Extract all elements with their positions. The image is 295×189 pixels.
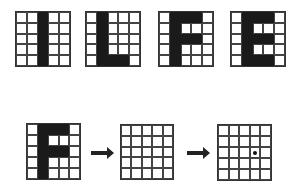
filled-cell [97, 12, 108, 23]
empty-cell [250, 136, 261, 147]
empty-cell [191, 55, 202, 66]
empty-cell [163, 157, 173, 168]
empty-cell [48, 34, 59, 45]
filled-cell [170, 34, 181, 45]
empty-cell [121, 157, 131, 168]
filled-cell [242, 23, 253, 34]
empty-cell [108, 44, 119, 55]
empty-cell [59, 157, 70, 168]
empty-cell [152, 157, 162, 168]
empty-cell [239, 147, 250, 158]
empty-cell [229, 147, 240, 158]
empty-cell [159, 44, 170, 55]
empty-cell [260, 147, 271, 158]
arrow-right-icon [187, 151, 205, 155]
filled-cell [181, 12, 192, 23]
grid-E [230, 11, 286, 67]
empty-cell [159, 34, 170, 45]
empty-cell [274, 44, 285, 55]
empty-cell [59, 44, 70, 55]
empty-cell [86, 34, 97, 45]
filled-cell [242, 55, 253, 66]
empty-cell [260, 136, 271, 147]
filled-cell [38, 44, 49, 55]
empty-cell [27, 168, 38, 179]
filled-cell [242, 12, 253, 23]
filled-cell [263, 12, 274, 23]
filled-cell [97, 23, 108, 34]
empty-cell [48, 135, 59, 146]
empty-cell [48, 157, 59, 168]
filled-cell [38, 135, 49, 146]
filled-cell [38, 34, 49, 45]
filled-cell [97, 55, 108, 66]
empty-cell [250, 158, 261, 169]
empty-cell [152, 125, 162, 136]
filled-cell [38, 55, 49, 66]
empty-cell [218, 147, 229, 158]
filled-cell [38, 12, 49, 23]
filled-cell [108, 55, 119, 66]
empty-cell [191, 44, 202, 55]
empty-cell [250, 169, 261, 180]
filled-cell [170, 55, 181, 66]
empty-cell [16, 34, 27, 45]
empty-cell [48, 55, 59, 66]
empty-cell [121, 168, 131, 179]
empty-cell [202, 12, 213, 23]
empty-cell [263, 44, 274, 55]
empty-cell [59, 168, 70, 179]
empty-cell [202, 23, 213, 34]
empty-cell [27, 34, 38, 45]
empty-cell [118, 12, 129, 23]
empty-cell [231, 44, 242, 55]
grid-L [85, 11, 141, 67]
filled-cell [242, 34, 253, 45]
empty-cell [59, 23, 70, 34]
empty-cell [118, 23, 129, 34]
empty-cell [218, 125, 229, 136]
empty-cell [69, 135, 80, 146]
empty-cell [142, 147, 152, 158]
empty-cell [16, 23, 27, 34]
empty-cell [260, 169, 271, 180]
empty-cell [229, 136, 240, 147]
empty-cell [231, 23, 242, 34]
empty-cell [239, 125, 250, 136]
filled-cell [253, 12, 264, 23]
empty-cell [27, 23, 38, 34]
empty-cell [131, 147, 141, 158]
filled-cell [48, 124, 59, 135]
empty-cell [142, 125, 152, 136]
empty-cell [86, 55, 97, 66]
dot-marker-icon [253, 151, 257, 155]
filled-cell [242, 44, 253, 55]
empty-cell [69, 124, 80, 135]
empty-cell [274, 34, 285, 45]
empty-cell [229, 158, 240, 169]
empty-cell [274, 55, 285, 66]
filled-cell [38, 124, 49, 135]
empty-cell [239, 169, 250, 180]
empty-cell [27, 44, 38, 55]
empty-cell [129, 44, 140, 55]
empty-cell [27, 55, 38, 66]
grid-I [15, 11, 71, 67]
empty-cell [250, 125, 261, 136]
grid-blank [120, 124, 174, 180]
empty-cell [163, 136, 173, 147]
empty-cell [16, 55, 27, 66]
filled-cell [170, 44, 181, 55]
empty-cell [48, 12, 59, 23]
empty-cell [118, 44, 129, 55]
empty-cell [239, 136, 250, 147]
empty-cell [129, 23, 140, 34]
filled-cell [59, 124, 70, 135]
empty-cell [69, 146, 80, 157]
empty-cell [231, 55, 242, 66]
arrow-right-icon [91, 151, 109, 155]
empty-cell [69, 157, 80, 168]
empty-cell [142, 136, 152, 147]
empty-cell [48, 44, 59, 55]
empty-cell [27, 12, 38, 23]
